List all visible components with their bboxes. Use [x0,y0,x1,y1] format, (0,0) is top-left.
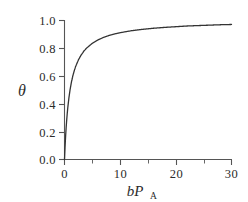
y-axis-title: θ [18,82,26,99]
x-tick-label-0: 0 [61,167,68,181]
x-axis-title-subscript: A [150,191,157,201]
y-tick-label-0.6: 0.6 [39,70,56,84]
x-axis-title-main: bP [127,183,144,199]
y-tick-label-1.0: 1.0 [39,14,56,28]
y-tick-label-0.2: 0.2 [39,126,56,140]
x-tick-label-10: 10 [114,167,127,181]
x-tick-label-30: 30 [225,167,238,181]
chart-figure: 1.0 0.8 0.6 0.4 0.2 0.0 0 10 20 30 θ bP … [0,0,248,202]
y-tick-label-0.4: 0.4 [39,98,56,112]
y-tick-label-0.8: 0.8 [39,42,56,56]
x-tick-label-20: 20 [170,167,183,181]
langmuir-isotherm-plot: 1.0 0.8 0.6 0.4 0.2 0.0 0 10 20 30 θ bP … [0,0,248,202]
y-tick-label-0.0: 0.0 [39,153,56,167]
